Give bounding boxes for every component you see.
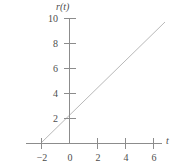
x-axis-title: t [166, 136, 169, 146]
y-tick-label-10: 10 [38, 14, 58, 24]
x-tick-label-2: 2 [96, 153, 101, 163]
chart-figure: r(t) t 10 8 6 4 2 −2 0 2 4 6 [0, 0, 181, 167]
plot-area [0, 0, 181, 167]
y-tick-label-8: 8 [38, 39, 58, 49]
x-tick-label-0: 0 [68, 153, 73, 163]
y-axis-title: r(t) [56, 2, 69, 12]
data-line-rt [41, 22, 165, 143]
x-tick-label-minus2: −2 [37, 153, 48, 163]
y-tick-label-6: 6 [38, 64, 58, 74]
x-tick-label-6: 6 [152, 153, 157, 163]
y-tick-label-2: 2 [38, 114, 58, 124]
x-tick-label-4: 4 [124, 153, 129, 163]
y-tick-label-4: 4 [38, 89, 58, 99]
